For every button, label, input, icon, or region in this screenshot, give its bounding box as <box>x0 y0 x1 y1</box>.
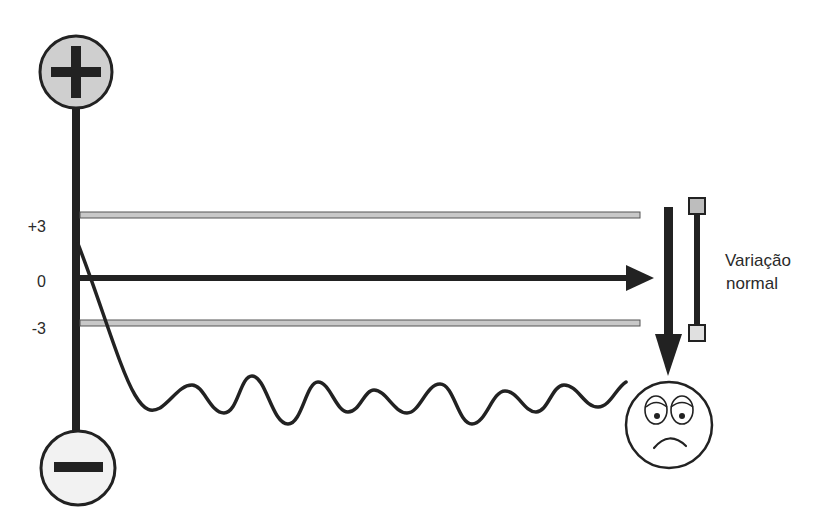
diagram-canvas: +3 0 -3 Variação normal <box>0 0 840 530</box>
bracket-bottom-square <box>689 325 705 341</box>
label-zero: 0 <box>37 273 46 290</box>
sad-face-icon <box>626 382 712 468</box>
bracket-bar <box>694 210 700 334</box>
minus-pole <box>41 431 115 505</box>
downward-shift-arrow <box>655 207 682 376</box>
face-outline <box>626 382 712 468</box>
range-label-line2: normal <box>726 274 778 293</box>
plus-pole <box>40 36 112 108</box>
process-curve <box>78 244 626 424</box>
arrow-right-icon <box>626 265 654 291</box>
right-pupil <box>679 413 685 419</box>
shift-shaft <box>664 207 673 337</box>
center-line <box>80 275 628 281</box>
right-eye <box>671 396 693 424</box>
label-plus-3: +3 <box>28 218 46 235</box>
range-label-line1: Variação <box>725 251 791 270</box>
normal-variation-bracket <box>689 198 705 341</box>
left-eye <box>645 396 667 424</box>
center-line-arrow <box>80 265 654 291</box>
arrow-down-icon <box>655 334 682 376</box>
lower-limit-line <box>80 320 640 326</box>
plus-icon-vertical <box>71 46 81 98</box>
vertical-axis <box>72 100 80 440</box>
bracket-top-square <box>689 198 705 214</box>
upper-limit-line <box>80 212 640 218</box>
minus-icon <box>54 462 103 472</box>
left-pupil <box>654 413 660 419</box>
label-minus-3: -3 <box>32 320 46 337</box>
